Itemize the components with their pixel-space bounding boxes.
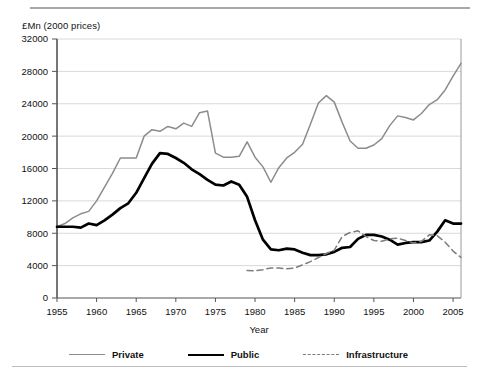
y-tick-label: 0 [43,292,48,303]
line-swatch-icon-private [69,349,105,359]
y-tick-label: 28000 [22,66,48,77]
line-swatch-icon-public [188,349,224,359]
x-tick-label: 1955 [46,306,67,317]
x-tick-label: 1960 [86,306,107,317]
y-tick-label: 12000 [22,195,48,206]
y-tick-label: 20000 [22,131,48,142]
legend-label-infrastructure: Infrastructure [346,349,408,360]
x-tick-labels: 1955196019651970197519801985199019952000… [46,298,463,317]
x-tick-label: 2000 [403,306,424,317]
x-tick-label: 1985 [284,306,305,317]
y-tick-label: 32000 [22,33,48,44]
y-tick-label: 8000 [27,228,48,239]
x-tick-label: 1995 [363,306,384,317]
x-tick-label: 2005 [443,306,464,317]
x-axis-title: Year [249,324,268,335]
y-tick-label: 24000 [22,98,48,109]
legend-item-public[interactable]: Public [188,349,260,360]
y-tick-label: 16000 [22,163,48,174]
legend-label-private: Private [112,349,144,360]
line-chart-plot: 040008000120001600020000240002800032000 … [0,0,477,344]
data-series-group [57,63,461,271]
legend-label-public: Public [231,349,260,360]
x-tick-label: 1970 [165,306,186,317]
series-line-private [57,63,461,226]
x-tick-label: 1990 [324,306,345,317]
chart-legend: Private Public Infrastructure [0,344,477,364]
legend-item-infrastructure[interactable]: Infrastructure [303,349,408,360]
y-tick-label: 4000 [27,260,48,271]
legend-item-private[interactable]: Private [69,349,144,360]
x-tick-label: 1980 [244,306,265,317]
dashed-line-swatch-icon-infrastructure [303,349,339,359]
x-tick-label: 1965 [126,306,147,317]
x-tick-label: 1975 [205,306,226,317]
chart-figure: £Mn (2000 prices) 0400080001200016000200… [0,0,477,374]
y-tick-labels: 040008000120001600020000240002800032000 [22,33,57,303]
bottom-divider [12,366,467,367]
